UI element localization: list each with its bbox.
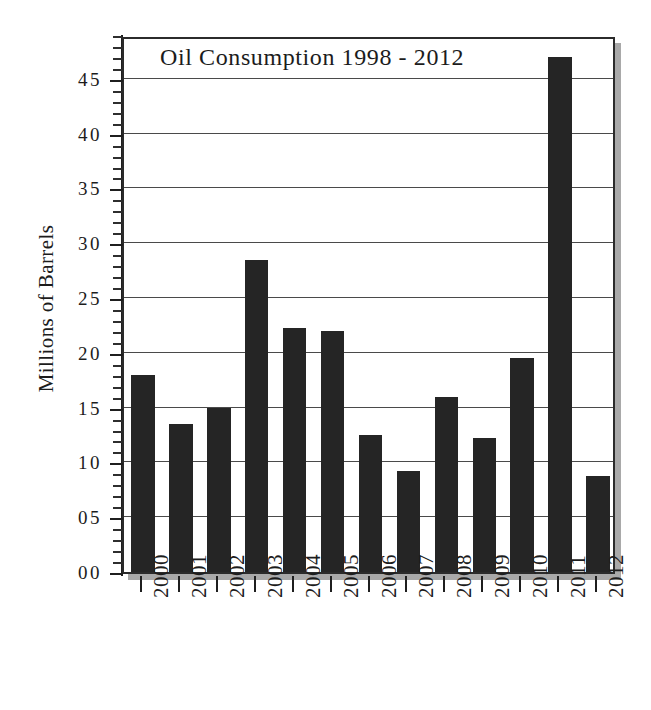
x-tick-label: 2004 — [301, 554, 326, 598]
x-tick — [443, 576, 445, 592]
y-tick-minor — [113, 507, 122, 509]
y-tick-minor — [113, 321, 122, 323]
x-tick — [368, 576, 370, 592]
x-tick — [481, 576, 483, 592]
y-tick-minor — [113, 474, 122, 476]
x-tick-label: 2005 — [339, 554, 364, 598]
y-tick-minor — [113, 200, 122, 202]
x-tick-label: 2002 — [225, 554, 250, 598]
y-tick-minor — [113, 387, 122, 389]
y-tick-minor — [113, 496, 122, 498]
x-tick — [595, 576, 597, 592]
x-tick-label: 2008 — [452, 554, 477, 598]
y-tick-minor — [113, 485, 122, 487]
y-tick-minor — [113, 343, 122, 345]
y-tick-minor — [113, 233, 122, 235]
y-tick-minor — [113, 146, 122, 148]
y-tick-minor — [113, 332, 122, 334]
y-tick-minor — [113, 124, 122, 126]
x-tick — [216, 576, 218, 592]
x-axis-ticks-and-labels: 2000200120022003200420052006200720082009… — [0, 0, 651, 710]
x-tick-label: 2000 — [149, 554, 174, 598]
y-tick-minor — [113, 277, 122, 279]
y-tick-minor — [113, 168, 122, 170]
y-tick-minor — [113, 551, 122, 553]
y-tick-minor — [113, 36, 122, 38]
x-tick-label: 2011 — [566, 555, 591, 598]
y-tick-minor — [113, 452, 122, 454]
x-tick — [178, 576, 180, 592]
y-tick-major — [110, 409, 123, 411]
y-tick-minor — [113, 288, 122, 290]
x-tick — [292, 576, 294, 592]
x-tick-label: 2012 — [604, 554, 629, 598]
y-tick-minor — [113, 255, 122, 257]
y-tick-major — [110, 244, 123, 246]
y-tick-minor — [113, 376, 122, 378]
y-tick-minor — [113, 441, 122, 443]
y-tick-minor — [113, 431, 122, 433]
y-tick-minor — [113, 420, 122, 422]
x-tick-label: 2007 — [414, 554, 439, 598]
y-tick-minor — [113, 47, 122, 49]
x-tick — [519, 576, 521, 592]
x-tick — [405, 576, 407, 592]
x-tick-label: 2009 — [490, 554, 515, 598]
y-tick-minor — [113, 91, 122, 93]
y-tick-major — [110, 463, 123, 465]
y-tick-major — [110, 573, 123, 575]
y-tick-minor — [113, 58, 122, 60]
x-tick — [330, 576, 332, 592]
y-tick-minor — [113, 540, 122, 542]
y-tick-minor — [113, 562, 122, 564]
y-tick-minor — [113, 310, 122, 312]
y-tick-minor — [113, 222, 122, 224]
y-tick-minor — [113, 69, 122, 71]
x-tick-label: 2010 — [528, 554, 553, 598]
chart-figure: Millions of Barrels 00051015202530354045… — [0, 0, 651, 710]
x-tick — [557, 576, 559, 592]
y-tick-minor — [113, 398, 122, 400]
y-tick-minor — [113, 529, 122, 531]
y-tick-major — [110, 80, 123, 82]
y-tick-minor — [113, 365, 122, 367]
y-tick-major — [110, 354, 123, 356]
x-tick — [254, 576, 256, 592]
y-tick-minor — [113, 211, 122, 213]
x-tick-label: 2003 — [263, 554, 288, 598]
y-tick-minor — [113, 266, 122, 268]
x-tick-label: 2001 — [187, 554, 212, 598]
y-tick-minor — [113, 178, 122, 180]
y-tick-minor — [113, 157, 122, 159]
y-tick-major — [110, 135, 123, 137]
y-tick-major — [110, 299, 123, 301]
y-tick-minor — [113, 102, 122, 104]
y-tick-minor — [113, 113, 122, 115]
y-tick-major — [110, 189, 123, 191]
x-tick-label: 2006 — [377, 554, 402, 598]
y-tick-major — [110, 518, 123, 520]
x-tick — [140, 576, 142, 592]
